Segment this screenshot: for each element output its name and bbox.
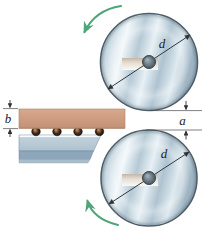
table-top-plate <box>19 135 101 151</box>
top-roller: d <box>101 14 198 111</box>
a-label: a <box>179 113 186 128</box>
table-band <box>19 151 94 160</box>
top-roller-hub <box>143 56 156 69</box>
bottom-diameter-label: d <box>161 146 168 161</box>
diagram-canvas: d d b a <box>0 0 204 243</box>
dimension-b: b <box>3 100 18 137</box>
slab <box>19 109 125 129</box>
top-diameter-label: d <box>159 36 166 51</box>
roller-table <box>19 127 104 163</box>
bottom-roller: d <box>101 130 197 226</box>
b-label: b <box>5 111 12 126</box>
table-base-strip <box>19 160 90 164</box>
bottom-roller-hub <box>143 172 156 185</box>
rolling-mill-figure: d d b a <box>0 0 204 243</box>
